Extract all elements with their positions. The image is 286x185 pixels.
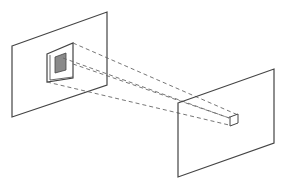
output-plane xyxy=(178,69,274,177)
projection-line-bottom xyxy=(47,82,229,125)
diagram-canvas xyxy=(0,0,286,185)
kernel-region xyxy=(55,53,66,73)
output-unit xyxy=(229,114,238,126)
output-unit-front xyxy=(230,114,238,126)
